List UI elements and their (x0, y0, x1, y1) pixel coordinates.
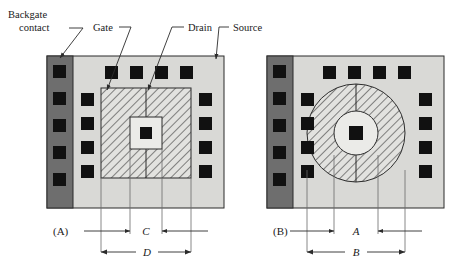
top-pad-a (155, 66, 168, 79)
top-pad-b (373, 66, 386, 79)
right-pad-b (419, 165, 432, 178)
dimension-a-label: A (352, 225, 360, 237)
right-pad-b (419, 117, 432, 130)
left-pad-b (301, 165, 314, 178)
left-pad-b (301, 117, 314, 130)
backgate-pad-a (53, 146, 66, 159)
dimension-b-label: B (353, 246, 360, 258)
left-pad-a (81, 93, 94, 106)
backgate-pad-a (53, 173, 66, 186)
center-pad-b (349, 126, 363, 140)
left-pad-a (81, 117, 94, 130)
backgate-pad-b (273, 173, 286, 186)
callout-backgate-line1: Backgate (8, 9, 47, 20)
right-pad-a (199, 141, 212, 154)
backgate-pad-b (273, 119, 286, 132)
backgate-pad-b (273, 146, 286, 159)
callout-backgate-line2: contact (19, 22, 49, 33)
backgate-pad-a (53, 65, 66, 78)
device-layout-figure: C D (A) (0, 0, 461, 275)
top-pad-b (348, 66, 361, 79)
right-pad-a (199, 93, 212, 106)
callout-gate-line1: Gate (93, 22, 113, 33)
top-pad-b (323, 66, 336, 79)
panel-b-label: (B) (273, 225, 288, 238)
top-pad-a (180, 66, 193, 79)
dimension-c-label: C (142, 225, 150, 237)
backgate-pad-b (273, 92, 286, 105)
right-pad-a (199, 117, 212, 130)
top-pad-a (130, 66, 143, 79)
panel-a-label: (A) (53, 225, 69, 238)
backgate-pad-b (273, 65, 286, 78)
figure-canvas: C D (A) (0, 0, 461, 275)
backgate-pad-a (53, 119, 66, 132)
right-pad-b (419, 141, 432, 154)
left-pad-a (81, 165, 94, 178)
top-pad-b (398, 66, 411, 79)
left-pad-b (301, 93, 314, 106)
center-pad-a (140, 127, 152, 139)
left-pad-b (301, 141, 314, 154)
left-pad-a (81, 141, 94, 154)
right-pad-a (199, 165, 212, 178)
dimension-d-label: D (142, 246, 151, 258)
right-pad-b (419, 93, 432, 106)
callout-drain-line1: Drain (188, 22, 213, 33)
callout-source-line1: Source (233, 22, 262, 33)
backgate-pad-a (53, 92, 66, 105)
